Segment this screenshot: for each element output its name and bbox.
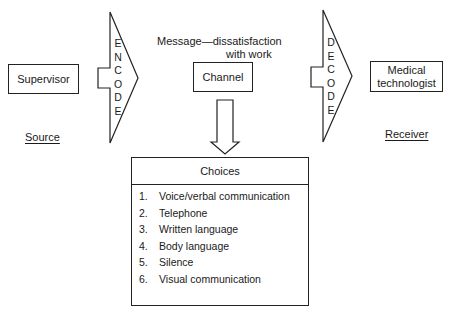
choice-item: 2. Telephone: [139, 205, 308, 222]
encode-letter: D: [114, 91, 122, 105]
choice-label: Voice/verbal communication: [159, 188, 290, 205]
supervisor-label: Supervisor: [17, 73, 70, 86]
receiver-label-line2: technologist: [377, 77, 436, 90]
choice-item: 1. Voice/verbal communication: [139, 188, 308, 205]
choices-header: Choices: [132, 158, 308, 185]
decode-letter: D: [327, 36, 335, 50]
encode-letter: E: [114, 37, 121, 51]
source-caption: Source: [25, 131, 60, 143]
choice-number: 6.: [139, 271, 159, 288]
choice-number: 1.: [139, 188, 159, 205]
decode-letter: O: [327, 77, 335, 91]
encode-letter: N: [114, 51, 122, 65]
choice-number: 4.: [139, 238, 159, 255]
choice-item: 5. Silence: [139, 254, 308, 271]
choice-label: Telephone: [159, 205, 207, 222]
choice-item: 4. Body language: [139, 238, 308, 255]
encode-letter: O: [114, 78, 122, 92]
encode-letter: C: [114, 64, 122, 78]
decode-letters: D E C O D E: [325, 36, 337, 117]
choices-title: Choices: [200, 165, 240, 177]
choice-label: Visual communication: [159, 271, 261, 288]
message-line1: Message—dissatisfaction: [157, 35, 282, 48]
message-line2: with work: [226, 48, 272, 61]
encode-letter: E: [114, 105, 121, 119]
down-arrow-icon: [211, 100, 239, 154]
choice-label: Written language: [159, 221, 238, 238]
decode-letter: E: [327, 50, 334, 64]
choice-label: Silence: [159, 254, 193, 271]
supervisor-box: Supervisor: [8, 64, 79, 94]
receiver-caption: Receiver: [385, 128, 428, 140]
channel-box: Channel: [193, 62, 253, 92]
medical-technologist-box: Medical technologist: [370, 61, 443, 92]
channel-label: Channel: [203, 71, 244, 84]
decode-letter: D: [327, 90, 335, 104]
choice-label: Body language: [159, 238, 229, 255]
choices-list: 1. Voice/verbal communication 2. Telepho…: [132, 185, 308, 287]
choices-box: Choices 1. Voice/verbal communication 2.…: [131, 157, 309, 306]
choice-number: 5.: [139, 254, 159, 271]
decode-letter: C: [327, 63, 335, 77]
choice-number: 3.: [139, 221, 159, 238]
decode-letter: E: [327, 104, 334, 118]
choice-item: 6. Visual communication: [139, 271, 308, 288]
choice-number: 2.: [139, 205, 159, 222]
receiver-label-line1: Medical: [388, 64, 426, 77]
choice-item: 3. Written language: [139, 221, 308, 238]
encode-letters: E N C O D E: [112, 37, 124, 118]
